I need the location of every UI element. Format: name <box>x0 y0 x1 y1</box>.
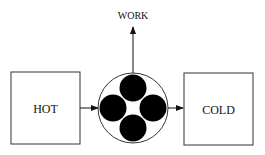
engine-piston-bottom <box>120 115 147 142</box>
hot-reservoir: HOT <box>11 72 80 144</box>
cold-label: COLD <box>202 103 235 117</box>
cold-reservoir: COLD <box>184 73 253 145</box>
engine <box>98 73 168 143</box>
engine-piston-top <box>120 75 147 102</box>
heat-engine-diagram: HOT WORK COLD <box>0 0 265 155</box>
work-label: WORK <box>118 10 149 21</box>
engine-piston-left <box>100 95 127 122</box>
hot-label: HOT <box>33 102 58 116</box>
engine-piston-right <box>140 95 167 122</box>
